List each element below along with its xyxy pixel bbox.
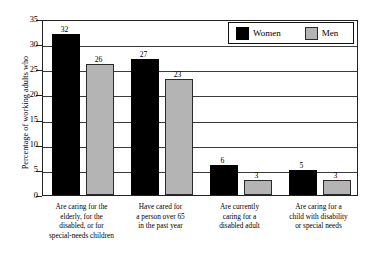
y-tick-label-15: 15 bbox=[8, 116, 38, 124]
bar-men-3 bbox=[323, 180, 351, 195]
x-axis-label-3: Are caring for achild with disabilityor … bbox=[273, 202, 364, 231]
y-tick-label-20: 20 bbox=[8, 91, 38, 99]
x-label-line: caring for a bbox=[194, 212, 285, 222]
x-axis-label-2: Are currentlycaring for adisabled adult bbox=[194, 202, 285, 231]
y-tick-label-35: 35 bbox=[8, 16, 38, 24]
bar-chart: Percentage of working adults who 0510152… bbox=[0, 0, 370, 265]
x-axis-label-0: Are caring for theelderly, for thedisabl… bbox=[36, 202, 127, 241]
bar-women-0 bbox=[52, 34, 80, 195]
legend-label-women: Women bbox=[253, 29, 281, 38]
y-tick-label-5: 5 bbox=[8, 166, 38, 174]
bar-women-3 bbox=[289, 170, 317, 195]
y-tick-label-10: 10 bbox=[8, 141, 38, 149]
bar-value-women-1: 27 bbox=[124, 51, 164, 59]
legend: Women Men bbox=[228, 22, 354, 44]
y-tick-label-30: 30 bbox=[8, 41, 38, 49]
bar-value-men-0: 26 bbox=[79, 56, 119, 64]
x-label-line: Are caring for the bbox=[36, 202, 127, 212]
x-label-line: a person over 65 bbox=[115, 212, 206, 222]
x-label-line: Have cared for bbox=[115, 202, 206, 212]
bar-value-women-0: 32 bbox=[45, 26, 85, 34]
bar-value-women-2: 6 bbox=[203, 157, 243, 165]
x-label-line: special-needs children bbox=[36, 231, 127, 241]
bar-women-2 bbox=[210, 165, 238, 195]
x-label-line: or special needs bbox=[273, 221, 364, 231]
x-label-line: elderly, for the bbox=[36, 212, 127, 222]
gridline-30 bbox=[43, 46, 357, 47]
y-tick-label-25: 25 bbox=[8, 66, 38, 74]
x-label-line: child with disability bbox=[273, 212, 364, 222]
x-label-line: disabled, or for bbox=[36, 221, 127, 231]
bar-men-2 bbox=[244, 180, 272, 195]
bar-value-men-1: 23 bbox=[158, 71, 198, 79]
legend-label-men: Men bbox=[322, 29, 339, 38]
x-label-line: Are caring for a bbox=[273, 202, 364, 212]
bar-women-1 bbox=[131, 59, 159, 195]
y-tick-label-0: 0 bbox=[8, 192, 38, 200]
legend-swatch-women bbox=[236, 27, 249, 40]
bar-value-men-2: 3 bbox=[237, 172, 277, 180]
x-axis-label-1: Have cared fora person over 65in the pas… bbox=[115, 202, 206, 231]
x-label-line: Are currently bbox=[194, 202, 285, 212]
bar-men-1 bbox=[165, 79, 193, 195]
legend-swatch-men bbox=[305, 27, 318, 40]
bar-value-men-3: 3 bbox=[316, 172, 356, 180]
plot-area bbox=[42, 20, 358, 196]
x-label-line: disabled adult bbox=[194, 221, 285, 231]
bar-men-0 bbox=[86, 64, 114, 195]
x-label-line: in the past year bbox=[115, 221, 206, 231]
bar-value-women-3: 5 bbox=[282, 162, 322, 170]
